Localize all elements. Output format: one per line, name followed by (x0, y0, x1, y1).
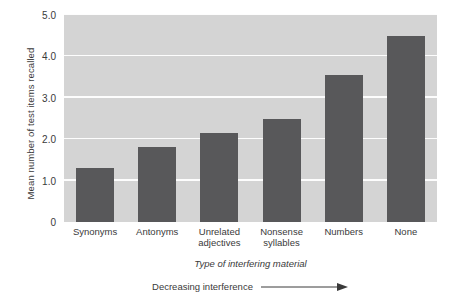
x-axis-tick-line: Antonyms (126, 226, 188, 237)
x-axis-tick-line: Numbers (313, 226, 375, 237)
y-axis-tick: 2.0 (42, 134, 56, 145)
x-axis-tick-line: None (375, 226, 437, 237)
y-axis-tick-labels: 01.02.03.04.05.0 (26, 15, 60, 222)
x-axis-tick-line: Nonsense (251, 226, 313, 237)
x-axis-tick-line: Synonyms (64, 226, 126, 237)
x-axis-tick-line: Unrelated (188, 226, 250, 237)
bar-chart: Mean number of test items recalled 01.02… (0, 0, 452, 305)
plot-area (64, 15, 437, 222)
right-arrow-icon (261, 282, 349, 292)
x-axis-tick-line: adjectives (188, 237, 250, 248)
annotation-label: Decreasing interference (152, 281, 253, 292)
x-axis-tick: Numbers (313, 226, 375, 248)
x-axis-tick: None (375, 226, 437, 248)
bar (263, 119, 301, 223)
x-axis-tick-labels: SynonymsAntonymsUnrelatedadjectivesNonse… (64, 226, 437, 248)
y-axis-tick: 4.0 (42, 51, 56, 62)
x-axis-tick: Antonyms (126, 226, 188, 248)
bar (76, 168, 114, 222)
x-axis-tick: Unrelatedadjectives (188, 226, 250, 248)
x-axis-tick: Synonyms (64, 226, 126, 248)
x-axis-tick-line: syllables (251, 237, 313, 248)
x-axis-title: Type of interfering material (64, 258, 437, 269)
bar (325, 75, 363, 222)
y-axis-tick: 0 (50, 217, 56, 228)
bar (200, 133, 238, 222)
x-axis-tick: Nonsensesyllables (251, 226, 313, 248)
y-axis-tick: 5.0 (42, 10, 56, 21)
bar (138, 147, 176, 222)
bars-group (64, 15, 437, 222)
y-axis-tick: 3.0 (42, 92, 56, 103)
bar (387, 36, 425, 222)
y-axis-tick: 1.0 (42, 175, 56, 186)
decreasing-interference-annotation: Decreasing interference (64, 281, 437, 292)
